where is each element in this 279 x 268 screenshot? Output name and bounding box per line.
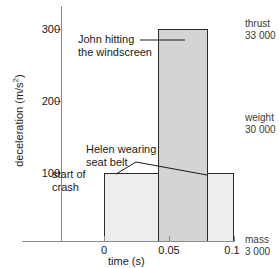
x-axis-title: time (s) bbox=[108, 256, 145, 267]
annotation-john-windscreen: John hitting the windscreen bbox=[78, 33, 152, 58]
y-axis-title-text: deceleration (m/s bbox=[13, 82, 25, 166]
y-axis-title: deceleration (m/s2) bbox=[14, 46, 25, 196]
x-tick-label-0: 0 bbox=[101, 244, 107, 256]
side-note-thrust: thrust 33 000 bbox=[245, 18, 279, 42]
x-tick-01 bbox=[234, 236, 235, 242]
y-tick-label-300: 300 bbox=[42, 24, 60, 35]
plot-area: 300 200 100 0 0.05 0.1 deceleration (m/s… bbox=[0, 0, 279, 268]
x-axis-line bbox=[22, 241, 234, 242]
bar-john-windscreen bbox=[158, 29, 208, 242]
annotation-start-of-crash: start of crash bbox=[52, 168, 86, 193]
x-tick-label-005: 0.05 bbox=[158, 244, 179, 256]
deceleration-vs-time-chart: 300 200 100 0 0.05 0.1 deceleration (m/s… bbox=[0, 0, 279, 268]
x-tick-005 bbox=[169, 236, 170, 242]
y-axis-title-exponent: 2 bbox=[11, 78, 20, 82]
y-tick-label-200: 200 bbox=[42, 96, 60, 107]
x-tick-0 bbox=[104, 236, 105, 242]
y-axis-line bbox=[61, 6, 62, 241]
y-axis-title-close: ) bbox=[13, 74, 25, 78]
side-note-mass: mass 3 000 bbox=[245, 234, 279, 258]
side-note-weight: weight 30 000 bbox=[245, 112, 279, 136]
x-tick-label-01: 0.1 bbox=[224, 244, 239, 256]
annotation-helen-seat-belt: Helen wearing seat belt bbox=[86, 143, 156, 168]
